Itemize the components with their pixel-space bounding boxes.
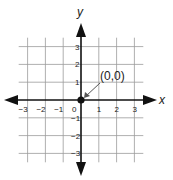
x-tick-label: 2 — [115, 105, 120, 114]
y-axis-down-arrow-icon — [76, 162, 86, 176]
x-tick-label: −2 — [36, 105, 46, 114]
x-tick-label: 1 — [97, 105, 102, 114]
origin-label: (0,0) — [100, 69, 125, 83]
leader-line — [86, 83, 100, 96]
y-tick-label: 1 — [75, 78, 80, 87]
x-tick-label: 3 — [132, 105, 137, 114]
coordinate-plane: −3−2−10123 −3−2−1123 x y (0,0) — [0, 0, 173, 180]
y-tick-label: −3 — [71, 149, 81, 158]
y-axis-up-arrow-icon — [76, 23, 86, 37]
x-tick-label: −3 — [19, 105, 29, 114]
x-tick-label: 0 — [72, 105, 77, 114]
x-axis-left-arrow-icon — [4, 95, 18, 105]
origin-point — [77, 96, 84, 103]
x-axis-right-arrow-icon — [143, 95, 157, 105]
y-tick-label: −1 — [71, 114, 81, 123]
x-tick-label: −1 — [54, 105, 64, 114]
x-tick-labels: −3−2−10123 — [19, 105, 138, 114]
x-axis-label: x — [158, 93, 166, 107]
y-tick-label: −2 — [71, 132, 81, 141]
y-tick-label: 2 — [75, 60, 80, 69]
y-tick-label: 3 — [75, 43, 80, 52]
y-axis-label: y — [76, 5, 84, 19]
